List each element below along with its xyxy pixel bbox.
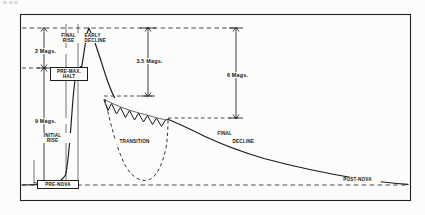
label-transition: TRANSITION	[110, 139, 159, 144]
label-final-rise: FINAL RISE	[54, 33, 83, 43]
label-3-5-mags: 3.5 Mags.	[127, 58, 172, 64]
label-post-nova: POST-NOVA	[334, 177, 381, 182]
label-9-mags: 9 Mags.	[23, 118, 68, 124]
page-edge-smudge-artifact	[3, 1, 20, 5]
label-6-mags: 6 Mags.	[216, 72, 259, 78]
label-final-decline-final: FINAL	[216, 131, 245, 136]
label-pre-max-halt: PRE-MAX. HALT	[50, 67, 88, 81]
label-initial-rise: INITIAL RISE	[34, 133, 71, 143]
label-2-mags: 2 Mags.	[23, 48, 68, 54]
label-early-decline: EARLY DECLINE	[83, 33, 120, 43]
nova-light-curve-figure: 2 Mags. 9 Mags. INITIAL RISE PRE-MAX. HA…	[0, 0, 425, 215]
label-final-decline-decline: DECLINE	[231, 139, 266, 144]
label-pre-nova: PRE-NOVA	[37, 180, 79, 189]
